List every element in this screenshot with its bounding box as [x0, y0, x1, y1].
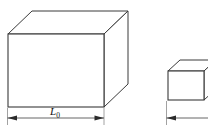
right-box-front-face [168, 71, 204, 100]
left-dim-label-main: L [49, 105, 56, 117]
left-dim-label-subscript: 0 [56, 111, 60, 120]
right-dim-arrow-start [167, 115, 177, 120]
left-box-group [8, 11, 128, 107]
figure-canvas: L0 [0, 0, 208, 135]
left-dimension-group: L0 [8, 105, 105, 125]
left-box-front-face [8, 34, 104, 107]
right-box-top-face [168, 60, 208, 71]
right-box-group [168, 60, 208, 100]
left-dim-arrow-end [95, 115, 105, 120]
left-dim-arrow-start [8, 115, 18, 120]
diagram-svg: L0 [0, 0, 208, 135]
